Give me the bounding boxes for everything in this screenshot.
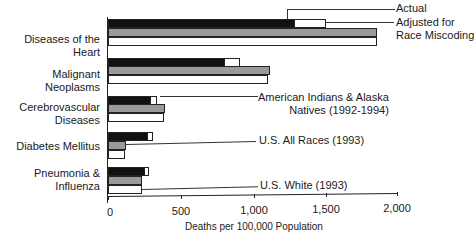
bar-diabetes-white: [108, 150, 125, 159]
bar-pneumonia-white: [108, 185, 142, 194]
annotation-adjusted: Adjusted forRace Miscoding: [396, 16, 474, 42]
x-tick-label: 1,500: [306, 203, 346, 215]
bar-pneumonia-actual: [108, 167, 145, 176]
annotation-aian-line2: Natives (1992-1994): [283, 104, 389, 116]
x-axis: [108, 193, 398, 197]
bar-diabetes-actual: [108, 132, 148, 141]
bar-heart-all-races: [108, 28, 377, 37]
x-tick: [397, 192, 398, 196]
x-tick-label: 2,000: [377, 202, 417, 214]
category-label-diabetes: Diabetes Mellitus: [0, 140, 100, 153]
bar-malignant-all-races: [108, 66, 270, 75]
leader-adjusted: [326, 22, 394, 23]
annotation-aian: American Indians & AlaskaNatives (1992-1…: [258, 91, 389, 117]
x-tick-label: 0: [90, 206, 130, 218]
annotation-white: U.S. White (1993): [260, 179, 347, 192]
category-label-line1: Pneumonia &: [34, 167, 100, 179]
category-label-heart: Diseases of the Heart: [0, 33, 100, 59]
x-tick: [108, 196, 109, 200]
leader-white: [142, 186, 258, 190]
annotation-adjusted-line2: Race Miscoding: [396, 29, 474, 41]
annotation-aian-line1: American Indians & Alaska: [258, 91, 389, 103]
category-label-cerebrovascular: CerebrovascularDiseases: [0, 101, 100, 127]
x-tick: [254, 194, 255, 198]
bar-pneumonia-all-races: [108, 176, 142, 185]
x-axis-label: Deaths per 100,000 Population: [185, 221, 323, 232]
annotation-actual: Actual: [396, 2, 427, 15]
category-label-line2: Diseases: [55, 114, 100, 126]
category-label-line1: Cerebrovascular: [19, 101, 100, 113]
leader-actual-h: [287, 9, 395, 10]
category-label-malignant: Malignant Neoplasms: [0, 68, 100, 94]
bar-heart-white: [108, 37, 377, 46]
bar-heart-actual: [108, 19, 295, 28]
bar-malignant-white: [108, 75, 268, 84]
leader-all-races: [126, 141, 256, 145]
x-tick: [181, 195, 182, 199]
x-tick-label: 1,000: [234, 204, 274, 216]
annotation-all-races: U.S. All Races (1993): [259, 134, 364, 147]
leader-aian: [160, 96, 258, 97]
annotation-adjusted-line1: Adjusted for: [396, 16, 455, 28]
x-tick: [326, 193, 327, 197]
leader-actual-v: [287, 9, 288, 19]
bar-cerebro-white: [108, 113, 164, 122]
category-label-line2: Influenza: [55, 180, 100, 192]
x-tick-label: 500: [161, 205, 201, 217]
bar-cerebro-all-races: [108, 104, 165, 113]
bar-diabetes-all-races: [108, 141, 126, 150]
category-label-pneumonia: Pneumonia &Influenza: [0, 167, 100, 193]
